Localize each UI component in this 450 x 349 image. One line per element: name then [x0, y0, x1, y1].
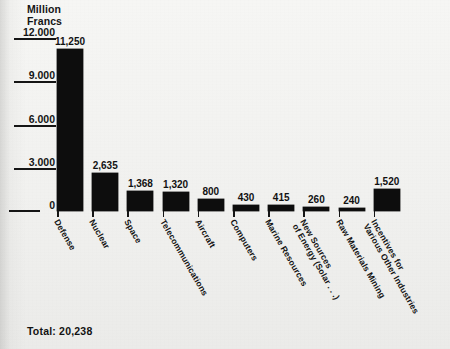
bar — [57, 49, 83, 211]
category-tick-stub — [127, 211, 129, 217]
category-label: Defense — [52, 218, 77, 252]
bar — [303, 207, 329, 211]
category-tick-stub — [198, 211, 200, 217]
bar — [339, 208, 365, 211]
bar — [233, 205, 259, 211]
category-tick-stub — [268, 211, 270, 217]
category-tick-stub — [57, 211, 59, 217]
bar-value-label: 240 — [326, 195, 378, 206]
category-label: Computers — [228, 218, 259, 263]
bar — [127, 191, 153, 211]
category-label: Nuclear — [87, 218, 111, 251]
bar — [268, 205, 294, 211]
chart-page: Million Francs 12.0009.0006.0003.0000 11… — [0, 0, 450, 349]
category-tick-stub — [233, 211, 235, 217]
category-tick-stub — [92, 211, 94, 217]
category-tick-stub — [303, 211, 305, 217]
category-label: Space — [122, 218, 143, 245]
total-label: Total: 20,238 — [27, 325, 92, 337]
bar-value-label: 1,520 — [361, 176, 413, 187]
bar-value-label: 11,250 — [44, 36, 96, 47]
category-label: Aircraft — [193, 218, 217, 250]
category-tick-stub — [374, 211, 376, 217]
bar — [374, 189, 400, 211]
category-tick-stub — [339, 211, 341, 217]
category-tick-stub — [163, 211, 165, 217]
plot-area: 11,250Defense2,635Nuclear1,368Space1,320… — [0, 0, 450, 349]
bar-value-label: 2,635 — [79, 160, 131, 171]
